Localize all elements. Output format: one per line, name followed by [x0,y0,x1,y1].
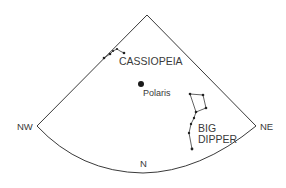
direction-nw-label: NW [17,121,33,132]
direction-ne-label: NE [260,121,273,132]
cassiopeia-label: CASSIOPEIA [119,55,183,67]
sky-chart: CASSIOPEIA Polaris BIG DIPPER NW NE N [0,0,286,188]
big-dipper-label-line2: DIPPER [198,133,238,145]
direction-n-label: N [140,158,147,169]
polaris-label: Polaris [143,88,171,98]
polaris-star [138,81,144,87]
